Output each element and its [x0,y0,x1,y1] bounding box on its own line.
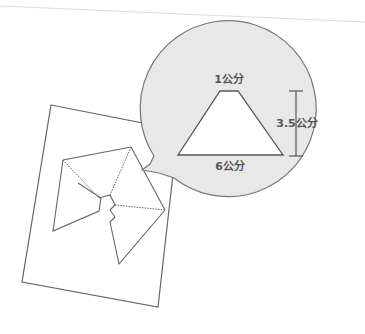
bottom-width-label: 6公分 [215,159,245,173]
top-width-label: 1公分 [214,72,244,86]
diagram-canvas: 1公分 6公分 3.5公分 [0,0,365,334]
height-label: 3.5公分 [276,116,318,130]
top-rule [0,6,365,22]
